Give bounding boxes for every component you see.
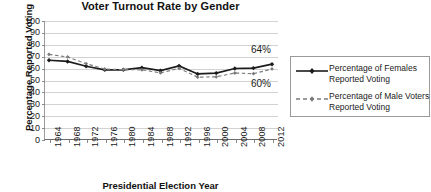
y-tick-label: 70 <box>10 52 40 61</box>
data-point-marker <box>270 67 274 71</box>
data-point-marker <box>214 71 218 75</box>
data-point-marker <box>233 66 237 70</box>
data-point-marker <box>251 66 255 70</box>
x-tick-mark <box>87 140 88 143</box>
x-axis-title: Presidential Election Year <box>44 180 277 191</box>
series-layer <box>44 21 277 140</box>
y-tick-label: 30 <box>10 100 40 109</box>
legend-label-females-line2: Reported Voting <box>329 74 390 84</box>
data-point-marker <box>66 55 70 59</box>
x-tick-mark <box>50 140 51 143</box>
x-tick-mark <box>273 140 274 143</box>
legend-box: Percentage of Females Reported Voting Pe… <box>290 56 430 117</box>
x-tick-label: 2012 <box>277 126 286 147</box>
x-tick-mark <box>143 140 144 143</box>
data-point-marker <box>270 62 274 66</box>
legend-label-females: Percentage of Females Reported Voting <box>329 63 417 85</box>
legend-label-males-line1: Percentage of Male Voters <box>329 91 429 101</box>
legend-item-males[interactable]: Percentage of Male Voters Reported Votin… <box>295 91 429 113</box>
x-tick-mark <box>124 140 125 143</box>
x-tick-mark <box>254 140 255 143</box>
y-tick-label: 40 <box>10 88 40 97</box>
data-point-marker <box>65 59 69 63</box>
data-point-marker <box>233 71 237 75</box>
y-tick-label: 10 <box>10 124 40 133</box>
data-point-marker <box>47 53 51 57</box>
x-tick-mark <box>199 140 200 143</box>
data-point-marker <box>196 75 200 79</box>
legend-item-females[interactable]: Percentage of Females Reported Voting <box>295 63 417 85</box>
data-point-marker <box>47 58 51 62</box>
y-tick-label: 50 <box>10 76 40 85</box>
x-tick-mark <box>180 140 181 143</box>
legend-label-males: Percentage of Male Voters Reported Votin… <box>329 91 429 113</box>
legend-label-males-line2: Reported Voting <box>329 102 390 112</box>
annotation-female-2012: 64% <box>251 44 271 55</box>
chart-title: Voter Turnout Rate by Gender <box>44 0 277 12</box>
data-point-marker <box>121 68 125 72</box>
x-tick-mark <box>236 140 237 143</box>
x-tick-mark <box>69 140 70 143</box>
x-tick-mark <box>217 140 218 143</box>
data-point-marker <box>252 72 256 76</box>
y-tick-label: 60 <box>10 64 40 73</box>
legend-swatch-solid-line-icon <box>295 63 329 75</box>
legend-label-females-line1: Percentage of Females <box>329 63 417 73</box>
y-tick-label: 80 <box>10 40 40 49</box>
x-tick-mark <box>162 140 163 143</box>
y-tick-label: 0 <box>10 136 40 145</box>
x-tick-mark <box>106 140 107 143</box>
legend-swatch-dashed-line-icon <box>295 91 329 103</box>
y-tick-mark <box>42 140 45 141</box>
data-point-marker <box>214 75 218 79</box>
annotation-male-2012: 60% <box>251 78 271 89</box>
y-tick-label: 20 <box>10 112 40 121</box>
y-tick-label: 90 <box>10 28 40 37</box>
data-point-marker <box>159 71 163 75</box>
chart-canvas: Voter Turnout Rate by Gender Percentage … <box>0 0 431 192</box>
y-tick-label: 100 <box>10 17 40 26</box>
